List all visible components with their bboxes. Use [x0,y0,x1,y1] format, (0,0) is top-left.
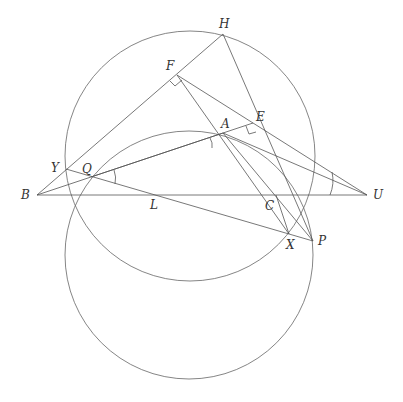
diagram-svg: H F E A Y Q B L C U X P [0,0,403,402]
label-P: P [317,234,327,248]
label-A: A [220,117,230,131]
label-L: L [149,198,158,212]
label-F: F [165,59,175,73]
upper-circle [65,31,315,281]
geometry-diagram: H F E A Y Q B L C U X P [0,0,403,402]
angle-mark-A [210,138,212,148]
right-angle-mark-F [170,80,182,86]
label-Q: Q [82,162,92,176]
label-U: U [373,188,384,202]
line-AP [223,133,313,241]
label-Y: Y [51,161,60,175]
label-H: H [218,17,230,31]
label-E: E [255,110,265,124]
angle-mark-Q [114,170,116,184]
right-angle-mark-E [246,126,256,134]
label-B: B [20,188,30,202]
line-FU [177,75,367,195]
label-C: C [265,199,274,213]
line-AU [223,133,367,195]
lower-circle [65,131,313,379]
angle-mark-U [330,172,333,195]
label-X: X [285,238,295,252]
line-YP [66,169,313,241]
line-QA [91,133,223,177]
line-BH [37,34,223,195]
line-CX [276,195,289,234]
